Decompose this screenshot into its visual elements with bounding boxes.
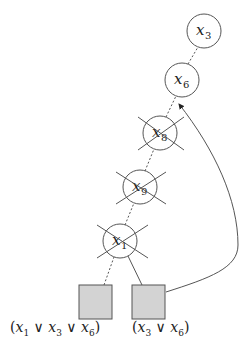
clause-box-1 [79, 285, 112, 319]
edge-c1-x1 [104, 257, 114, 285]
node-x6-var: x [174, 70, 183, 88]
clause-label-1: (x1 ∨ x3 ∨ x6) [10, 319, 100, 338]
or-symbol: ∨ [29, 319, 48, 335]
node-x9: x 9 [116, 170, 166, 204]
edge-x1-x9 [125, 203, 134, 225]
implication-graph: x 3 x 6 x 8 x 9 x 1 [0, 0, 250, 359]
or-symbol: ∨ [62, 319, 81, 335]
var: x [170, 319, 178, 335]
paren-close: ) [184, 319, 189, 335]
edge-x8-x6 [166, 96, 176, 117]
node-x3-sub: 3 [205, 30, 211, 41]
edge-c2-x1 [128, 256, 142, 285]
node-x3: x 3 [187, 14, 221, 48]
node-x9-var: x [132, 177, 141, 195]
node-x6: x 6 [165, 63, 199, 97]
var: x [48, 319, 56, 335]
clause-box-2 [132, 285, 165, 319]
node-x8: x 8 [138, 116, 184, 150]
edge-x9-x8 [145, 149, 154, 171]
paren-close: ) [95, 319, 100, 335]
var: x [81, 319, 89, 335]
node-x6-sub: 6 [183, 79, 189, 90]
edge-x6-x3 [188, 47, 198, 64]
clause-label-2: (x3 ∨ x6) [132, 319, 189, 338]
node-x1: x 1 [97, 224, 148, 258]
node-x3-var: x [196, 21, 205, 39]
or-symbol: ∨ [151, 319, 170, 335]
